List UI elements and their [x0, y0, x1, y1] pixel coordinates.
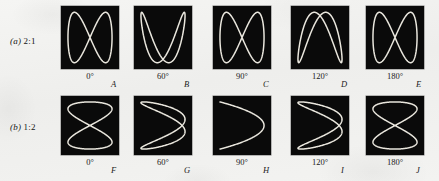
phase-label-a: 0° [70, 71, 110, 81]
lissajous-panel-f [61, 96, 119, 155]
panel-letter-d: D [341, 79, 347, 89]
lissajous-panel-c [213, 6, 271, 69]
lissajous-panel-a [61, 6, 119, 69]
lissajous-trace-f [68, 102, 112, 149]
row-label-paren: (a) [10, 36, 21, 46]
lissajous-trace-a [68, 12, 112, 62]
panel-letter-e: E [416, 79, 421, 89]
panel-letter-j: J [416, 165, 420, 175]
lissajous-trace-j [373, 102, 417, 149]
lissajous-figure-plate: (a) 2:10°A60°B90°C120°D180°E(b) 1:20°F60… [0, 0, 439, 181]
phase-label-e: 180° [375, 71, 415, 81]
lissajous-trace-c [220, 12, 264, 62]
panel-letter-g: G [184, 165, 190, 175]
row-label-ratio: 1:2 [24, 122, 36, 132]
lissajous-trace-d [298, 12, 342, 62]
lissajous-panel-b [134, 6, 192, 69]
lissajous-panel-h [213, 96, 271, 155]
panel-letter-h: H [263, 165, 269, 175]
panel-letter-b: B [184, 79, 189, 89]
lissajous-panel-g [134, 96, 192, 155]
panel-letter-f: F [111, 165, 116, 175]
row-label-row-a: (a) 2:1 [10, 36, 36, 46]
phase-label-g: 60° [143, 157, 183, 167]
lissajous-panel-i [291, 96, 349, 155]
row-label-ratio: 2:1 [24, 36, 36, 46]
panel-letter-c: C [263, 79, 269, 89]
lissajous-trace-i [298, 102, 342, 149]
panel-letter-a: A [111, 79, 116, 89]
lissajous-trace-h [220, 102, 264, 149]
phase-label-h: 90° [222, 157, 262, 167]
lissajous-panel-j [366, 96, 424, 155]
lissajous-trace-b [141, 12, 185, 62]
row-label-row-b: (b) 1:2 [10, 122, 36, 132]
phase-label-b: 60° [143, 71, 183, 81]
panel-letter-i: I [341, 165, 344, 175]
phase-label-f: 0° [70, 157, 110, 167]
lissajous-panel-d [291, 6, 349, 69]
lissajous-trace-e [373, 12, 417, 62]
lissajous-panel-e [366, 6, 424, 69]
lissajous-trace-g [141, 102, 185, 149]
phase-label-i: 120° [300, 157, 340, 167]
row-label-paren: (b) [10, 122, 21, 132]
phase-label-c: 90° [222, 71, 262, 81]
phase-label-j: 180° [375, 157, 415, 167]
phase-label-d: 120° [300, 71, 340, 81]
